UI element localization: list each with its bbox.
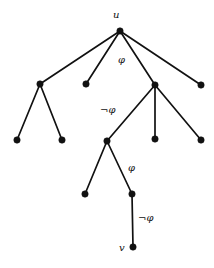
tree-node [129, 191, 135, 197]
nodes-layer [14, 28, 204, 250]
tree-edge [132, 194, 133, 247]
tree-node [83, 81, 89, 87]
node-label-u: u [113, 10, 119, 20]
tree-edge [120, 31, 155, 85]
edge-label: φ [118, 55, 125, 65]
tree-node [152, 82, 158, 88]
tree-edge [120, 31, 201, 85]
tree-node [59, 137, 65, 143]
tree-node [82, 191, 88, 197]
tree-edge [17, 84, 40, 140]
tree-edge [40, 31, 120, 84]
tree-node-u [117, 28, 123, 34]
edge-label: φ [128, 163, 135, 173]
tree-edge [40, 84, 62, 140]
tree-node [198, 137, 204, 143]
edge-label: ¬φ [138, 213, 153, 223]
tree-node [104, 138, 110, 144]
tree-node-v [130, 244, 136, 250]
tree-node [152, 136, 158, 142]
tree-edge [85, 141, 107, 194]
tree-node [14, 137, 20, 143]
tree-node [198, 82, 204, 88]
node-label-v: v [119, 243, 125, 253]
tree-node [37, 81, 43, 87]
tree-edge [155, 85, 201, 140]
tree-graph-canvas [0, 0, 214, 268]
tree-edge [86, 31, 120, 84]
edge-label: ¬φ [100, 105, 115, 115]
tree-figure: φ¬φφ¬φuv [0, 0, 214, 268]
